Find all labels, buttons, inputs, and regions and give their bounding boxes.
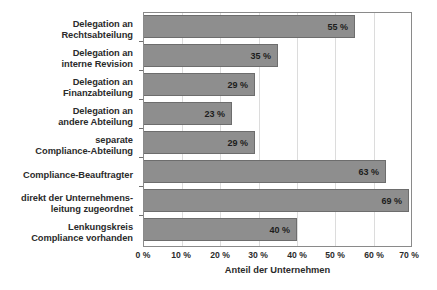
bar-1: 35 % (143, 44, 278, 67)
x-axis-tick-label-0: 0 % (136, 250, 151, 260)
bar-value-6: 69 % (381, 196, 402, 206)
bar-7: 40 % (143, 218, 297, 241)
category-label-6-line1: direkt der Unternehmens- (0, 193, 133, 204)
x-axis-tick-label-5: 50 % (325, 250, 345, 260)
bar-value-4: 29 % (227, 138, 248, 148)
category-label-2-line1: Delegation an (0, 77, 133, 88)
x-axis-tick-label-4: 40 % (287, 250, 307, 260)
category-label-0-line1: Delegation an (0, 19, 133, 30)
category-label-7: Lenkungskreis Compliance vorhanden (0, 222, 133, 245)
bar-2: 29 % (143, 73, 255, 96)
category-label-3-line2: andere Abteilung (0, 117, 133, 128)
x-axis-tick-label-2: 20 % (210, 250, 230, 260)
bar-5: 63 % (143, 160, 386, 183)
bar-3: 23 % (143, 102, 232, 125)
bar-0: 55 % (143, 15, 355, 38)
plot-area: 55 % 35 % 29 % 23 % 29 % 63 % 69 % 40 % (143, 12, 412, 247)
category-label-3-line1: Delegation an (0, 106, 133, 117)
category-label-5: Compliance-Beauftragter (0, 170, 133, 181)
category-label-4-line1: separate (0, 135, 133, 146)
category-label-2: Delegation an Finanzabteilung (0, 77, 133, 100)
bar-value-2: 29 % (227, 80, 248, 90)
category-label-7-line1: Lenkungskreis (0, 222, 133, 233)
bar-4: 29 % (143, 131, 255, 154)
category-label-3: Delegation an andere Abteilung (0, 106, 133, 129)
x-axis-tick-label-7: 70 % (399, 250, 419, 260)
x-axis-title: Anteil der Unternehmen (143, 265, 412, 275)
category-label-4: separate Compliance-Abteilung (0, 135, 133, 158)
bar-value-7: 40 % (269, 225, 290, 235)
category-label-6: direkt der Unternehmens- leitung zugeord… (0, 193, 133, 216)
category-label-1: Delegation an interne Revision (0, 48, 133, 71)
category-label-0: Delegation an Rechtsabteilung (0, 19, 133, 42)
category-label-1-line1: Delegation an (0, 48, 133, 59)
x-axis: 0 % 10 % 20 % 30 % 40 % 50 % 60 % 70 % (143, 250, 412, 264)
category-label-5-line1: Compliance-Beauftragter (0, 170, 133, 181)
category-label-0-line2: Rechtsabteilung (0, 30, 133, 41)
bar-value-5: 63 % (358, 167, 379, 177)
category-label-1-line2: interne Revision (0, 59, 133, 70)
x-axis-tick-label-3: 30 % (248, 250, 268, 260)
category-axis: Delegation an Rechtsabteilung Delegation… (0, 12, 138, 247)
bar-value-1: 35 % (250, 51, 271, 61)
x-axis-tick-label-1: 10 % (171, 250, 191, 260)
bar-value-0: 55 % (327, 22, 348, 32)
category-label-7-line2: Compliance vorhanden (0, 233, 133, 244)
x-axis-tick-label-6: 60 % (364, 250, 384, 260)
bar-value-3: 23 % (204, 109, 225, 119)
category-label-6-line2: leitung zugeordnet (0, 204, 133, 215)
bar-6: 69 % (143, 189, 409, 212)
category-label-2-line2: Finanzabteilung (0, 88, 133, 99)
category-label-4-line2: Compliance-Abteilung (0, 146, 133, 157)
bar-chart: Delegation an Rechtsabteilung Delegation… (0, 0, 437, 290)
